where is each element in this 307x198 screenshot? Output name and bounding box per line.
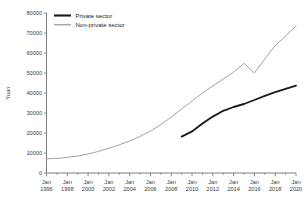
- series-line-non-private-sector: [47, 26, 297, 159]
- x-tick-label-month: Jan: [188, 179, 197, 185]
- x-tick-label-year: 2004: [123, 186, 135, 192]
- chart-legend: Private sectorNon-private sector: [54, 13, 125, 28]
- y-tick-label: 0: [39, 170, 42, 176]
- y-tick-label: 60000: [26, 50, 42, 56]
- x-tick-label-month: Jan: [42, 179, 51, 185]
- x-tick-label-month: Jan: [84, 179, 93, 185]
- y-tick-label: 10000: [26, 150, 42, 156]
- y-axis-title-text: Yuan: [5, 87, 11, 100]
- x-tick-label-year: 2016: [248, 186, 260, 192]
- legend-label-1: Private sector: [76, 13, 113, 19]
- x-tick-label-month: Jan: [104, 179, 113, 185]
- y-tick-label: 80000: [26, 10, 42, 16]
- x-tick-label-year: 2020: [290, 186, 302, 192]
- axes: [47, 13, 297, 173]
- data-series: [47, 26, 297, 159]
- x-tick-label-month: Jan: [271, 179, 280, 185]
- x-tick-label-month: Jan: [208, 179, 217, 185]
- x-tick-label-month: Jan: [125, 179, 134, 185]
- series-line-private-sector: [182, 86, 296, 137]
- axis-lines: [47, 13, 297, 173]
- y-tick-label: 30000: [26, 110, 42, 116]
- x-axis-ticks: Jan1996Jan1998Jan2000Jan2002Jan2004Jan20…: [40, 173, 302, 192]
- x-tick-label-year: 2000: [82, 186, 94, 192]
- x-tick-label-month: Jan: [250, 179, 259, 185]
- legend-label-2: Non-private sector: [76, 22, 125, 28]
- y-tick-label: 50000: [26, 70, 42, 76]
- x-tick-label-year: 2010: [186, 186, 198, 192]
- x-tick-label-year: 2014: [227, 186, 239, 192]
- x-tick-label-month: Jan: [229, 179, 238, 185]
- y-tick-label: 20000: [26, 130, 42, 136]
- x-tick-label-year: 1998: [61, 186, 73, 192]
- x-tick-label-year: 2012: [207, 186, 219, 192]
- y-tick-label: 40000: [26, 90, 42, 96]
- x-tick-label-year: 2002: [103, 186, 115, 192]
- chart-container: 0100002000030000400005000060000700008000…: [0, 0, 307, 198]
- x-tick-label-month: Jan: [63, 179, 72, 185]
- x-tick-label-year: 2008: [165, 186, 177, 192]
- x-tick-label-year: 2018: [269, 186, 281, 192]
- x-tick-label-month: Jan: [146, 179, 155, 185]
- x-tick-label-month: Jan: [291, 179, 300, 185]
- y-tick-label: 70000: [26, 30, 42, 36]
- y-axis-ticks: 0100002000030000400005000060000700008000…: [26, 10, 46, 176]
- x-tick-label-year: 2006: [144, 186, 156, 192]
- y-axis-title: Yuan: [5, 87, 11, 100]
- line-chart: 0100002000030000400005000060000700008000…: [0, 0, 307, 198]
- x-tick-label-month: Jan: [167, 179, 176, 185]
- x-tick-label-year: 1996: [40, 186, 52, 192]
